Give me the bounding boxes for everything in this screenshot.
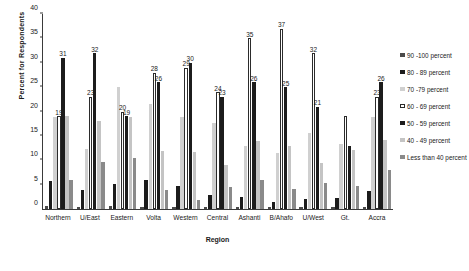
bar (260, 180, 263, 209)
bar (109, 206, 112, 209)
y-axis-tick-0: 0 (34, 199, 43, 206)
bar: 32 (93, 53, 96, 209)
plot-area: 0510152025303540 19312332201928262930242… (42, 14, 393, 210)
bar-value-label: 26 (250, 76, 257, 84)
bar: 23 (375, 97, 378, 209)
bar: 37 (280, 29, 283, 209)
x-axis-tick-label: Western (170, 214, 202, 221)
bar (344, 116, 347, 209)
bar (49, 181, 52, 209)
bar: 26 (379, 82, 382, 209)
bar (69, 180, 72, 209)
bar (113, 184, 116, 209)
bar: 30 (189, 63, 192, 209)
bar (320, 163, 323, 209)
bar (388, 170, 391, 209)
legend-swatch-icon (400, 121, 405, 126)
bar (348, 146, 351, 209)
bar (229, 187, 232, 209)
y-axis-title: Percent for Respondents (18, 0, 25, 121)
legend-swatch-icon (400, 87, 405, 92)
bar: 31 (61, 58, 64, 209)
bar (129, 117, 132, 209)
bar (244, 146, 247, 209)
legend-item[interactable]: 90 -100 percent (400, 52, 469, 60)
bar-group: 3526 (234, 14, 266, 209)
bar-group: 3725 (266, 14, 298, 209)
bar-value-label: 35 (246, 32, 253, 40)
legend-item[interactable]: 40 - 49 percent (400, 137, 469, 145)
bar (161, 151, 164, 210)
y-axis-tick-15: 15 (30, 125, 43, 132)
x-axis-tick-label: Accra (361, 214, 393, 221)
bar (304, 199, 307, 209)
bar-value-label: 25 (282, 81, 289, 89)
bar (268, 207, 271, 209)
bar (45, 206, 48, 209)
bar: 29 (184, 68, 187, 209)
bar-value-label: 23 (218, 90, 225, 98)
bar-value-label: 32 (310, 47, 317, 55)
bar (101, 162, 104, 209)
bar: 20 (121, 112, 124, 210)
bar (197, 200, 200, 209)
bar (204, 207, 207, 209)
bar: 19 (57, 116, 60, 209)
bar: 21 (316, 107, 319, 209)
bar (224, 165, 227, 209)
x-axis-tick-label: Northern (42, 214, 74, 221)
bar-group: 2930 (170, 14, 202, 209)
legend-item[interactable]: 70 -79 percent (400, 86, 469, 94)
bar-group: 2423 (202, 14, 234, 209)
y-axis-tick-5: 5 (34, 174, 43, 181)
bar (288, 146, 291, 209)
bar (85, 149, 88, 209)
legend-item[interactable]: Less than 40 percent (400, 154, 469, 162)
legend-label: 50 - 59 percent (407, 120, 450, 128)
bar (176, 186, 179, 209)
bar-value-label: 21 (314, 100, 321, 108)
bar (356, 186, 359, 209)
bar-chart: Percent for Respondents 0510152025303540… (0, 0, 469, 271)
bar (335, 198, 338, 209)
x-axis-tick-label: U/West (297, 214, 329, 221)
bar (331, 207, 334, 209)
legend-item[interactable]: 60 - 69 percent (400, 103, 469, 111)
legend-label: Less than 40 percent (407, 154, 467, 162)
x-axis-tick-label: Ashanti (233, 214, 265, 221)
y-axis-tick-20: 20 (30, 101, 43, 108)
bar: 32 (312, 53, 315, 209)
bar (165, 190, 168, 210)
bar-group: 2019 (107, 14, 139, 209)
bar: 25 (284, 87, 287, 209)
bar (180, 117, 183, 209)
legend-swatch-icon (400, 104, 405, 109)
x-axis-tick-labels: NorthernU/EastEasternVoltaWesternCentral… (42, 214, 393, 221)
x-axis-tick-label: B/Ahafo (265, 214, 297, 221)
y-axis-tick-30: 30 (30, 52, 43, 59)
bar-value-label: 32 (91, 47, 98, 55)
bar-groups: 1931233220192826293024233526372532212326 (43, 14, 393, 209)
bar (77, 207, 80, 209)
bar (65, 116, 68, 209)
bar (339, 144, 342, 209)
bar (172, 207, 175, 209)
bar (236, 207, 239, 209)
bar (276, 153, 279, 209)
bar-value-label: 37 (278, 22, 285, 30)
legend-item[interactable]: 80 - 89 percent (400, 69, 469, 77)
bar-group: 3221 (298, 14, 330, 209)
x-axis-tick-label: U/East (74, 214, 106, 221)
legend-item[interactable]: 50 - 59 percent (400, 120, 469, 128)
bar-group: 2332 (75, 14, 107, 209)
bar (240, 197, 243, 209)
bar: 35 (248, 38, 251, 209)
y-axis-tick-25: 25 (30, 77, 43, 84)
bar: 26 (157, 82, 160, 209)
legend-swatch-icon (400, 53, 405, 58)
bar (193, 152, 196, 209)
bar-value-label: 26 (377, 76, 384, 84)
y-axis-tick-10: 10 (30, 150, 43, 157)
bar (53, 117, 56, 209)
bar (308, 133, 311, 209)
